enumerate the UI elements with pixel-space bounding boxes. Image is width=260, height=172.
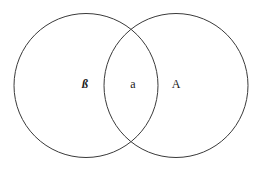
right-only-region-label: A: [172, 78, 181, 90]
intersection-region-label: a: [130, 78, 135, 90]
left-only-region-label: ß: [82, 78, 88, 90]
